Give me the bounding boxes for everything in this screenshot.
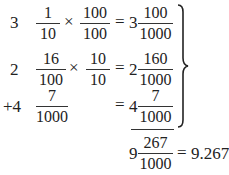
equals-sign: =	[115, 96, 125, 113]
numerator: 267	[144, 135, 168, 153]
row-1-result-fraction: 100 1000	[138, 5, 173, 42]
right-brace-icon	[176, 4, 190, 128]
row-3-result-whole: 4	[129, 98, 138, 115]
denominator: 1000	[140, 24, 172, 42]
sum-rule	[131, 129, 174, 130]
row-3-whole: +4	[3, 98, 21, 115]
equals-sign: =	[115, 59, 125, 76]
numerator: 10	[90, 51, 106, 69]
denominator: 1000	[140, 154, 172, 172]
row-2-fraction-b: 10 10	[86, 51, 110, 88]
numerator: 7	[48, 88, 56, 106]
times-sign: ×	[69, 59, 79, 76]
denominator: 1000	[140, 107, 172, 125]
denominator: 10	[40, 24, 56, 42]
total-decimal: 9.267	[191, 145, 229, 162]
row-2-fraction-a: 16 100	[36, 51, 66, 88]
times-sign: ×	[64, 13, 74, 30]
row-1-whole: 3	[10, 14, 19, 31]
numerator: 100	[144, 5, 168, 23]
denominator: 1000	[140, 70, 172, 88]
row-2-result-whole: 2	[129, 61, 138, 78]
equals-sign: =	[177, 144, 187, 161]
denominator: 100	[39, 70, 63, 88]
denominator: 100	[83, 24, 107, 42]
numerator: 160	[144, 51, 168, 69]
numerator: 16	[43, 51, 59, 69]
row-3-result-fraction: 7 1000	[138, 88, 173, 125]
total-whole: 9	[129, 145, 138, 162]
row-3-fraction-a: 7 1000	[36, 88, 68, 125]
total-fraction: 267 1000	[138, 135, 173, 172]
row-1-fraction-b: 100 100	[80, 5, 110, 42]
row-2-result-fraction: 160 1000	[138, 51, 173, 88]
numerator: 1	[44, 5, 52, 23]
equals-sign: =	[115, 13, 125, 30]
row-2-whole: 2	[10, 61, 19, 78]
numerator: 7	[152, 88, 160, 106]
denominator: 1000	[36, 107, 68, 125]
row-1-result-whole: 3	[129, 14, 138, 31]
row-1-fraction-a: 1 10	[36, 5, 60, 42]
denominator: 10	[90, 70, 106, 88]
numerator: 100	[83, 5, 107, 23]
